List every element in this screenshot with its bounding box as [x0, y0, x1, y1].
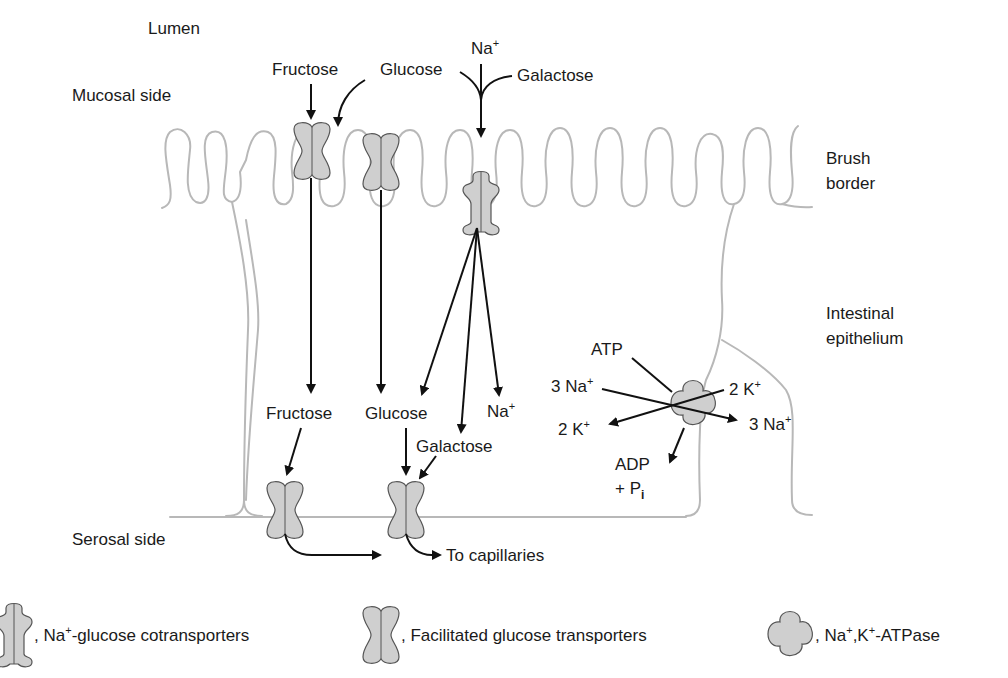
legend-atpase-label: , Na+,K+-ATPase [815, 624, 940, 645]
facilitated-transporter-icon [363, 607, 399, 664]
sglt-glucose-arrow [422, 228, 477, 394]
legend: , Na+-glucose cotransporters , Facilitat… [0, 604, 940, 667]
apical-na-label: Na+ [471, 37, 499, 58]
atp-arrow [632, 358, 672, 392]
galactose-entry-curve [460, 72, 512, 100]
basolateral-glucose-transporter [388, 482, 424, 539]
fructose-to-glut-arrow [287, 428, 301, 474]
lumen-label: Lumen [148, 19, 200, 38]
intracellular-glucose-label: Glucose [365, 404, 427, 423]
adp-arrow [670, 428, 684, 462]
pi-label: + Pi [615, 479, 644, 502]
legend-sglt-label: , Na+-glucose cotransporters [34, 624, 249, 645]
brush-border-label-1: Brush [826, 149, 870, 168]
lateral-membrane-right [686, 204, 812, 516]
k-in-label: 2 K+ [558, 418, 590, 439]
sglt-galactose-arrow [461, 228, 477, 432]
na-out-label: 3 Na+ [749, 413, 791, 434]
epithelium-label-1: Intestinal [826, 304, 894, 323]
sglt-na-arrow [477, 228, 499, 395]
epithelium-label-2: epithelium [826, 329, 904, 348]
intracellular-galactose-label: Galactose [416, 437, 493, 456]
intracellular-na-label: Na+ [487, 400, 515, 421]
apical-glucose-label: Glucose [380, 60, 442, 79]
na-k-atpase-icon [768, 612, 812, 656]
legend-glut-label: , Facilitated glucose transporters [401, 626, 647, 645]
to-capillaries-label: To capillaries [446, 546, 544, 565]
apical-galactose-label: Galactose [517, 66, 594, 85]
brush-border-label-2: border [826, 174, 875, 193]
na-k-atpase-pump [671, 381, 715, 425]
apical-fructose-label: Fructose [272, 60, 338, 79]
serosal-side-label: Serosal side [72, 530, 166, 549]
atp-label: ATP [591, 340, 623, 359]
intracellular-fructose-label: Fructose [266, 404, 332, 423]
apical-fructose-transporter [294, 123, 330, 180]
galactose-to-glut-arrow [420, 456, 436, 478]
adp-label: ADP [615, 455, 650, 474]
na-glucose-cotransporter-icon [0, 604, 32, 667]
na-glucose-cotransporter [463, 172, 499, 235]
basolateral-fructose-transporter [267, 482, 303, 539]
lateral-membrane-left [226, 202, 262, 516]
intestinal-absorption-diagram: Lumen Mucosal side Serosal side Brush bo… [0, 0, 1008, 678]
mucosal-side-label: Mucosal side [72, 86, 171, 105]
na-in-label: 3 Na+ [551, 375, 593, 396]
glucose-entry-arrow [338, 80, 365, 125]
k-out-label: 2 K+ [729, 378, 761, 399]
